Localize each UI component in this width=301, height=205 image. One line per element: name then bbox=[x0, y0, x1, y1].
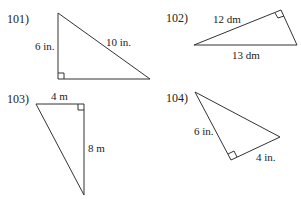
problem-number-104: 104) bbox=[166, 92, 188, 104]
label-104-right-leg: 4 in. bbox=[256, 152, 276, 163]
problem-number-101: 101) bbox=[7, 13, 29, 25]
triangle-102 bbox=[194, 10, 297, 45]
label-101-hypotenuse: 10 in. bbox=[106, 37, 131, 48]
problem-number-102: 102) bbox=[166, 12, 188, 24]
problem-number-103: 103) bbox=[7, 93, 29, 105]
triangle-103 bbox=[36, 104, 84, 195]
label-103-vertical-leg: 8 m bbox=[88, 143, 105, 154]
label-103-top-leg: 4 m bbox=[51, 91, 68, 102]
right-angle-marker-103 bbox=[78, 104, 84, 110]
label-102-leg: 12 dm bbox=[213, 14, 241, 25]
label-101-vertical-leg: 6 in. bbox=[35, 41, 55, 52]
label-102-hypotenuse: 13 dm bbox=[232, 50, 260, 61]
right-angle-marker-101 bbox=[58, 73, 64, 79]
triangles-figure bbox=[0, 0, 301, 205]
label-104-left-leg: 6 in. bbox=[194, 126, 214, 137]
triangle-101 bbox=[58, 13, 150, 79]
